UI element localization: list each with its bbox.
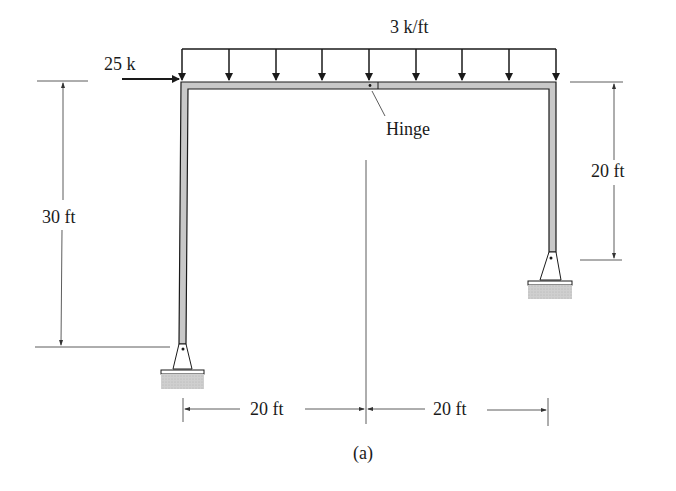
figure-caption: (a) [353, 443, 373, 464]
right-span-label: 20 ft [433, 399, 467, 419]
point-load-label: 25 k [104, 54, 136, 74]
span-dimensions [183, 398, 548, 426]
distributed-load [182, 49, 556, 80]
frame-member [179, 82, 556, 344]
distributed-load-label: 3 k/ft [390, 17, 429, 37]
frame-diagram: Hinge 3 k/ft 25 k [0, 0, 676, 491]
left-pin-support [161, 344, 204, 389]
hinge-leader [372, 91, 385, 116]
right-height-label: 20 ft [591, 161, 625, 181]
left-height-label: 30 ft [42, 207, 76, 227]
hinge-label: Hinge [386, 119, 430, 139]
left-span-label: 20 ft [250, 399, 284, 419]
right-pin-support [528, 252, 572, 299]
